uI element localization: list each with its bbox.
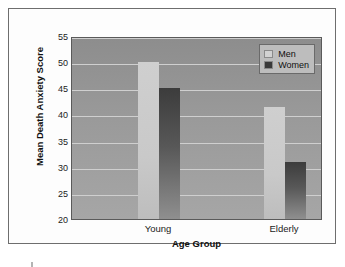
legend-item-women: Women [264,59,309,70]
y-axis-title: Mean Death Anxiety Score [34,32,45,182]
plot-area: Men Women [71,37,322,220]
y-axis-tick-label: 25 [42,190,68,199]
bar-elderly-women [285,162,306,220]
bar-young-men [138,62,159,219]
y-axis-tick-label: 35 [42,138,68,147]
y-axis-tick-label: 20 [42,216,68,225]
legend-label-men: Men [278,49,296,59]
x-axis-tick-label: Elderly [244,223,324,234]
legend-item-men: Men [264,48,309,59]
gridline [72,38,321,39]
y-axis-tick-label: 55 [42,33,68,42]
legend-swatch-men-icon [264,50,273,58]
legend-label-women: Women [278,60,309,70]
figure-frame: 2025303540455055 Mean Death Anxiety Scor… [8,8,336,244]
y-axis-tick-label: 50 [42,59,68,68]
x-axis-title: Age Group [71,238,322,249]
gridline [72,90,321,91]
x-axis-tick-label: Young [118,223,198,234]
y-axis-tick-label: 40 [42,111,68,120]
bar-elderly-men [264,107,285,219]
legend: Men Women [259,44,315,74]
legend-swatch-women-icon [264,61,273,69]
y-axis-tick-label: 30 [42,164,68,173]
y-axis-tick-label: 45 [42,85,68,94]
bar-young-women [159,88,180,219]
page-speck [31,262,33,267]
